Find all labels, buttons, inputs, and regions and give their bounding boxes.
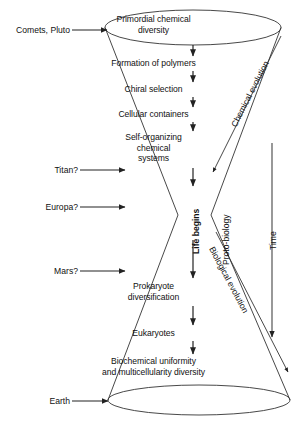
stage-biochemical: Biochemical uniformity and multicellular… xyxy=(0,356,307,377)
label-time: Time xyxy=(268,231,278,250)
stage-prokaryote: Prokaryote diversification xyxy=(0,281,307,302)
upper-cone-left-edge xyxy=(105,28,178,216)
stage-chiral: Chiral selection xyxy=(0,84,307,95)
source-mars-label: Mars? xyxy=(0,266,78,276)
bottom-ellipse xyxy=(108,385,290,415)
stage-self-organizing: Self-organizing chemical systems xyxy=(0,132,307,164)
stage-cellular: Cellular containers xyxy=(0,109,307,120)
figure-canvas: Primordial chemical diversity Formation … xyxy=(0,0,307,428)
upper-cone-right-edge xyxy=(211,28,281,216)
source-comets-pluto-label: Comets, Pluto xyxy=(0,25,70,35)
stage-eukaryotes: Eukaryotes xyxy=(0,328,307,339)
source-earth-label: Earth xyxy=(0,396,70,406)
source-titan-label: Titan? xyxy=(0,165,78,175)
label-life-begins: Life begins xyxy=(191,209,201,254)
source-europa-label: Europa? xyxy=(0,202,78,212)
